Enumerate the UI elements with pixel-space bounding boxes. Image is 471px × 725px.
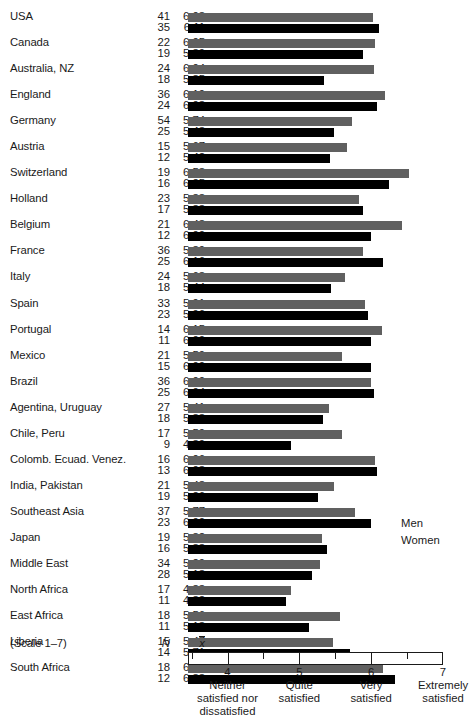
bar-men [188, 378, 371, 387]
bar-row-men: Portugal146.15 [0, 325, 471, 336]
bar-row-men: Canada226.05 [0, 38, 471, 49]
bar-women [188, 258, 383, 267]
country-label: Belgium [10, 218, 160, 230]
bar-row-men: Mexico215.59 [0, 351, 471, 362]
women-n-value: 9 [140, 438, 170, 450]
bar-men [188, 169, 409, 178]
bar-row-women: 126.00 [0, 231, 471, 242]
women-n-value: 12 [140, 229, 170, 241]
bar-men [188, 13, 373, 22]
bar-men [188, 404, 329, 413]
bar-women [188, 154, 330, 163]
bar-row-women: 356.11 [0, 23, 471, 34]
country-group: North Africa174.88114.82 [0, 585, 471, 611]
women-n-value: 23 [140, 308, 170, 320]
country-label: Switzerland [10, 166, 160, 178]
bar-row-men: Holland235.83 [0, 194, 471, 205]
country-group: Australia, NZ246.04185.35 [0, 64, 471, 90]
women-n-value: 11 [140, 620, 170, 632]
bar-men [188, 39, 375, 48]
bar-men [188, 117, 352, 126]
bar-row-women: 256.04 [0, 388, 471, 399]
bar-row-men: France365.89 [0, 246, 471, 257]
bar-women [188, 441, 291, 450]
women-n-value: 12 [140, 151, 170, 163]
country-label: USA [10, 10, 160, 22]
country-label: France [10, 244, 160, 256]
country-label: Germany [10, 114, 160, 126]
axis-minor-tick [335, 653, 336, 659]
country-group: Germany545.74255.48 [0, 116, 471, 142]
women-n-value: 11 [140, 334, 170, 346]
bar-women [188, 284, 331, 293]
bar-row-women: 125.42 [0, 153, 471, 164]
bar-row-men: Italy245.63 [0, 272, 471, 283]
country-label: North Africa [10, 583, 160, 595]
country-group: USA416.03356.11 [0, 12, 471, 38]
women-n-value: 17 [140, 203, 170, 215]
bar-women [188, 206, 363, 215]
women-n-value: 16 [140, 542, 170, 554]
women-n-value: 15 [140, 360, 170, 372]
country-group: Austria155.67125.42 [0, 142, 471, 168]
bar-women [188, 467, 377, 476]
bar-men [188, 221, 402, 230]
bar-row-women: 235.96 [0, 310, 471, 321]
country-group: Mexico215.59156.00 [0, 351, 471, 377]
satisfaction-bar-chart: USA416.03356.11Canada226.05195.89Austral… [0, 0, 471, 725]
bar-women [188, 337, 371, 346]
bar-men [188, 482, 334, 491]
bar-women [188, 76, 324, 85]
bar-women [188, 180, 389, 189]
bar-row-women: 246.08 [0, 101, 471, 112]
country-label: Middle East [10, 557, 160, 569]
women-n-value: 16 [140, 177, 170, 189]
bar-row-women: 185.33 [0, 414, 471, 425]
bar-row-men: Austria155.67 [0, 142, 471, 153]
axis-tick-number: 7 [383, 666, 471, 679]
bar-row-women: 116.00 [0, 336, 471, 347]
country-group: Holland235.83175.88 [0, 194, 471, 220]
legend-swatch-women [384, 534, 395, 545]
bar-men [188, 143, 347, 152]
women-n-value: 18 [140, 73, 170, 85]
bar-men [188, 65, 374, 74]
bar-row-women: 156.00 [0, 362, 471, 373]
x-axis-tick-labels: 4Neithersatisfied nordissatisfied5Quites… [0, 666, 471, 725]
bar-men [188, 300, 365, 309]
women-n-value: 11 [140, 594, 170, 606]
country-group: Italy245.63185.44 [0, 272, 471, 298]
bar-row-men: Agentina, Uruguay275.41 [0, 403, 471, 414]
bar-row-men: Australia, NZ246.04 [0, 64, 471, 75]
country-label: Italy [10, 270, 160, 282]
bar-row-women: 255.48 [0, 127, 471, 138]
bar-women [188, 50, 363, 59]
legend-swatch-men [384, 517, 395, 528]
axis-tick-label: 7Extremelysatisfied [383, 666, 471, 705]
bar-row-men: Germany545.74 [0, 116, 471, 127]
chart-rows: USA416.03356.11Canada226.05195.89Austral… [0, 12, 471, 689]
bar-row-women: 185.35 [0, 75, 471, 86]
bar-row-men: Chile, Peru175.59 [0, 429, 471, 440]
women-n-value: 24 [140, 99, 170, 111]
bar-men [188, 534, 322, 543]
bar-women [188, 311, 368, 320]
legend-label-women: Women [401, 534, 440, 546]
country-group: Middle East345.29285.18 [0, 559, 471, 585]
bar-row-men: England366.19 [0, 90, 471, 101]
bar-row-women: 195.89 [0, 49, 471, 60]
bar-row-women: 166.25 [0, 179, 471, 190]
bar-women [188, 415, 323, 424]
bar-row-men: India, Pakistan215.48 [0, 481, 471, 492]
country-label: Japan [10, 531, 160, 543]
axis-major-tick [299, 653, 300, 664]
country-group: East Africa185.56115.13 [0, 611, 471, 637]
women-n-value: 13 [140, 464, 170, 476]
bar-women [188, 389, 374, 398]
bar-row-men: Spain335.91 [0, 299, 471, 310]
women-n-value: 19 [140, 490, 170, 502]
bar-women [188, 24, 379, 33]
country-label: Southeast Asia [10, 505, 160, 517]
bar-men [188, 456, 375, 465]
bar-women [188, 519, 371, 528]
